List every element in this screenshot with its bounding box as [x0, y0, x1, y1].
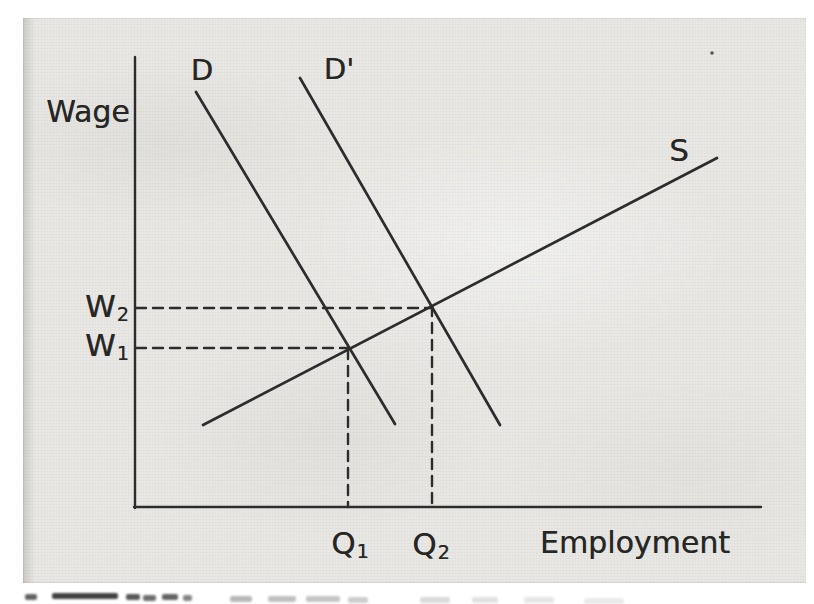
q1-base: Q — [331, 525, 355, 561]
q2-label: Q2 — [412, 529, 450, 562]
q2-subscript: 2 — [438, 542, 450, 565]
demand-shifted-curve-label: D' — [324, 55, 354, 84]
caption-fragment — [524, 597, 554, 603]
demand-shifted-curve — [300, 78, 500, 425]
w2-label: W2 — [85, 291, 129, 324]
demand-curve — [196, 92, 395, 424]
caption-fragment — [420, 597, 450, 603]
scan-speck — [710, 51, 714, 55]
w1-subscript: 1 — [117, 343, 129, 366]
w2-base: W — [85, 288, 116, 324]
demand-curve-label: D — [191, 56, 213, 85]
w1-base: W — [85, 327, 116, 363]
caption-fragment — [162, 594, 178, 600]
caption-fragment — [472, 597, 498, 603]
q2-base: Q — [412, 526, 436, 562]
w2-subscript: 2 — [117, 304, 129, 327]
caption-fragment — [230, 596, 252, 602]
q1-subscript: 1 — [357, 541, 369, 564]
x-axis-label: Employment — [540, 528, 730, 558]
caption-fragment — [126, 594, 140, 600]
q1-label: Q1 — [331, 528, 369, 561]
caption-fragment — [268, 596, 296, 602]
figure-canvas — [23, 18, 806, 583]
caption-fragment — [183, 595, 192, 601]
figure-panel: Wage Employment D D' S W2 W1 Q1 Q2 — [23, 18, 806, 583]
w1-label: W1 — [85, 330, 129, 363]
caption-fragment — [348, 597, 368, 603]
caption-fragment — [52, 593, 118, 599]
caption-fragment — [306, 596, 340, 602]
supply-curve — [203, 158, 717, 425]
caption-fragment — [143, 595, 156, 601]
y-axis-label: Wage — [46, 97, 130, 127]
caption-fragment — [25, 594, 37, 600]
supply-curve-label: S — [669, 135, 689, 166]
caption-fragment — [584, 598, 624, 604]
